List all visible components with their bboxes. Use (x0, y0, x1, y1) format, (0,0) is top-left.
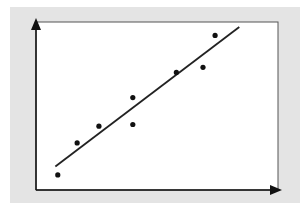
data-point (130, 122, 135, 127)
data-point (130, 95, 135, 100)
data-point (96, 124, 101, 129)
data-point (200, 65, 205, 70)
plot-area (36, 22, 278, 190)
scatter-chart (0, 0, 305, 211)
data-point (212, 33, 217, 38)
data-point (75, 140, 80, 145)
data-point (174, 70, 179, 75)
data-point (55, 172, 60, 177)
